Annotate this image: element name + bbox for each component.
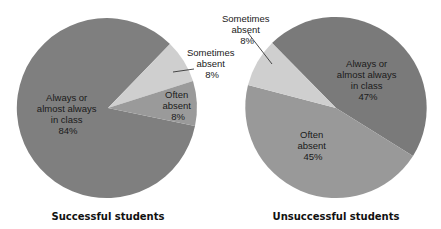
label-sometimes: Sometimes absent 8% xyxy=(222,13,272,46)
caption-unsuccessful: Unsuccessful students xyxy=(273,211,400,222)
pie-unsuccessful-students: Always or almost always in class 47% Oft… xyxy=(222,13,427,222)
caption-successful: Successful students xyxy=(52,211,165,222)
pie-successful-students: Always or almost always in class 84% Oft… xyxy=(17,18,237,222)
label-sometimes: Sometimes absent 8% xyxy=(187,47,237,80)
attendance-pie-charts: Always or almost always in class 84% Oft… xyxy=(0,0,441,229)
